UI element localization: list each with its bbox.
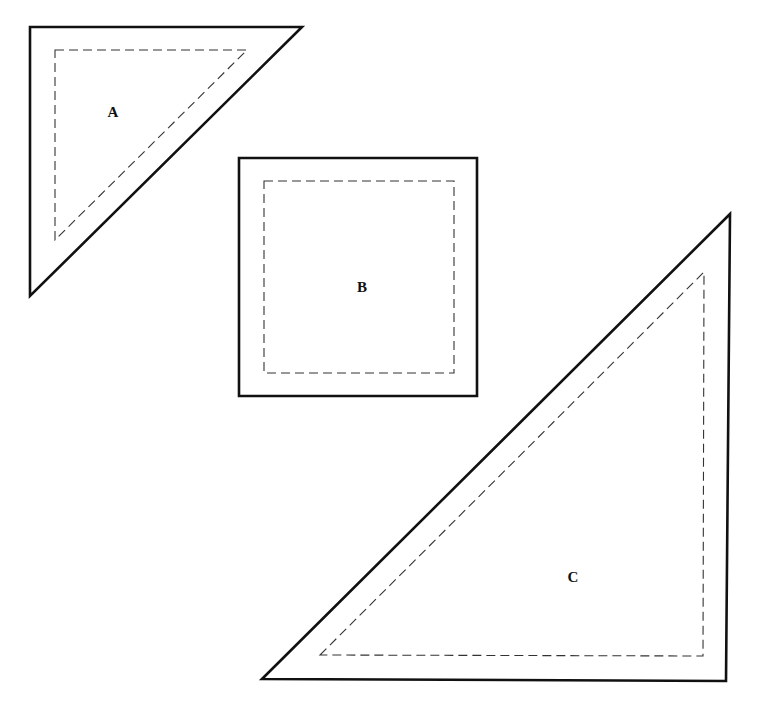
- piece-a-seam-line: [55, 50, 247, 240]
- piece-c-seam-line: [320, 272, 704, 656]
- piece-b: B: [239, 158, 477, 396]
- piece-a-label: A: [108, 104, 119, 120]
- pattern-diagram: A B C: [0, 0, 760, 704]
- piece-c-cut-line: [262, 214, 730, 681]
- piece-b-cut-line: [239, 158, 477, 396]
- piece-c-label: C: [568, 569, 579, 585]
- piece-b-seam-line: [264, 181, 454, 373]
- piece-b-label: B: [357, 279, 367, 295]
- piece-a-cut-line: [30, 27, 302, 296]
- piece-a: A: [30, 27, 302, 296]
- pattern-svg: A B C: [0, 0, 760, 704]
- piece-c: C: [262, 214, 730, 681]
